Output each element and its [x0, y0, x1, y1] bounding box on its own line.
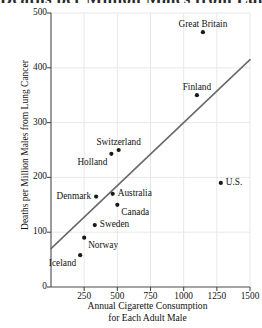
data-point [109, 152, 113, 156]
data-point [78, 253, 82, 257]
point-label: Switzerland [74, 137, 164, 147]
point-label: Norway [88, 240, 118, 250]
data-point [115, 203, 119, 207]
y-tick-label: 500 [20, 7, 47, 17]
x-axis-title: Annual Cigarette Consumption for Each Ad… [40, 300, 255, 323]
y-tick-label: 0 [20, 281, 47, 291]
point-label: Great Britain [158, 19, 248, 29]
data-point [117, 148, 121, 152]
point-label: U.S. [226, 177, 243, 187]
point-label: Sweden [100, 219, 129, 229]
point-label: Iceland [0, 258, 76, 268]
grid-lines [51, 13, 250, 287]
data-point [93, 223, 97, 227]
tick-marks [47, 13, 250, 291]
data-point [94, 194, 98, 198]
point-label: Canada [121, 207, 149, 217]
data-point [82, 236, 86, 240]
data-point [111, 192, 115, 196]
scatter-plot-figure: Deaths per Million Males from Lung Cance… [0, 0, 262, 328]
x-axis-title-line1: Annual Cigarette Consumption [40, 300, 255, 312]
data-point [201, 30, 205, 34]
point-label: Denmark [1, 191, 91, 201]
data-point [219, 181, 223, 185]
data-point [195, 93, 199, 97]
y-axis-title: Deaths per Million Males from Lung Cance… [20, 40, 30, 250]
point-label: Holland [17, 157, 107, 167]
point-label: Australia [118, 188, 152, 198]
point-label: Finland [152, 82, 242, 92]
x-axis-title-line2: for Each Adult Male [40, 312, 255, 324]
